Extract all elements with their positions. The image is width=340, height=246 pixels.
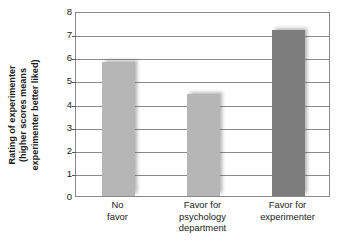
plot-area bbox=[75, 12, 330, 197]
x-category-label-line: psychology bbox=[160, 211, 245, 223]
y-axis-tick-labels: 876543210 bbox=[50, 0, 72, 246]
y-tick-label: 8 bbox=[50, 7, 72, 17]
y-axis-title-line-3: experimenter better liked) bbox=[30, 59, 41, 170]
x-category-label: Favor forpsychologydepartment bbox=[160, 199, 245, 234]
y-tick-label: 5 bbox=[50, 76, 72, 86]
bar-series bbox=[76, 13, 329, 196]
y-tick-label: 1 bbox=[50, 169, 72, 179]
x-category-label-line: department bbox=[160, 222, 245, 234]
bar-chart: Rating of experimenter (higher scores me… bbox=[0, 0, 340, 246]
bar[interactable] bbox=[187, 94, 220, 196]
y-axis-title-line-1: Rating of experimenter bbox=[7, 66, 18, 165]
y-tick-label: 3 bbox=[50, 123, 72, 133]
y-tick-label: 0 bbox=[50, 192, 72, 202]
y-tick-label: 2 bbox=[50, 146, 72, 156]
y-tick-label: 4 bbox=[50, 100, 72, 110]
x-category-label: Nofavor bbox=[75, 199, 160, 222]
y-axis-title-rotated-block: Rating of experimenter (higher scores me… bbox=[0, 27, 48, 203]
y-axis-title-line-2: (higher scores means bbox=[18, 68, 29, 162]
x-axis-category-labels: NofavorFavor forpsychologydepartmentFavo… bbox=[75, 199, 330, 246]
x-category-label-line: Favor for bbox=[160, 199, 245, 211]
x-category-label-line: Favor for bbox=[245, 199, 330, 211]
y-tick-label: 6 bbox=[50, 53, 72, 63]
x-category-label: Favor forexperimenter bbox=[245, 199, 330, 222]
bar[interactable] bbox=[272, 30, 305, 197]
bar[interactable] bbox=[102, 62, 135, 196]
x-category-label-line: experimenter bbox=[245, 211, 330, 223]
x-category-label-line: No bbox=[75, 199, 160, 211]
y-tick-label: 7 bbox=[50, 30, 72, 40]
y-axis-title: Rating of experimenter (higher scores me… bbox=[0, 0, 48, 246]
x-category-label-line: favor bbox=[75, 211, 160, 223]
